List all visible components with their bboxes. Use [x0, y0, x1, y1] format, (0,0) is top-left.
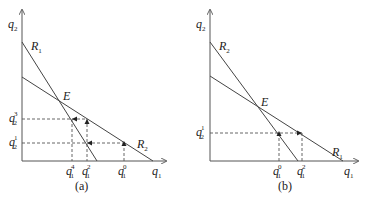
x-tick-q1-2: q21	[82, 163, 91, 180]
curve-label-r2-a: R2	[136, 137, 148, 153]
panel-a: q2 q1 R1 R2 E q32 q12 q41 q21 q01 (a)	[8, 10, 166, 193]
equilibrium-label-a: E	[62, 89, 71, 103]
x-tick-q1-0-b: q01	[273, 163, 282, 180]
arrow-left-q2-1	[87, 141, 92, 146]
reaction-curve-r2-a	[22, 77, 153, 161]
curve-label-r2-b: R2	[218, 39, 230, 55]
reaction-curve-r1-b	[210, 76, 343, 161]
x-tick-q1-0: q01	[118, 163, 127, 180]
caption-a: (a)	[75, 179, 88, 193]
caption-b: (b)	[278, 179, 292, 193]
x-axis-label-a: q1	[152, 164, 162, 180]
reaction-curve-r2-b	[210, 42, 298, 161]
panel-b: q2 q1 R2 R1 E q12 q01 q21 (b)	[196, 10, 358, 193]
reaction-function-diagrams: q2 q1 R1 R2 E q32 q12 q41 q21 q01 (a) q2…	[0, 0, 367, 199]
x-tick-q1-4: q41	[66, 163, 75, 180]
curve-label-r1-a: R1	[30, 39, 42, 55]
y-axis-label-b: q2	[196, 17, 206, 33]
arrow-left-q2-3	[72, 117, 77, 122]
y-axis-label-a: q2	[8, 17, 18, 33]
equilibrium-label-b: E	[260, 95, 269, 109]
y-tick-q2-1-b: q12	[196, 124, 205, 141]
curve-label-r1-b: R1	[331, 145, 343, 161]
y-tick-q2-1: q12	[9, 134, 18, 151]
x-tick-q1-2-b: q21	[297, 163, 306, 180]
y-tick-q2-3: q32	[9, 110, 18, 127]
x-axis-label-b: q1	[344, 164, 354, 180]
